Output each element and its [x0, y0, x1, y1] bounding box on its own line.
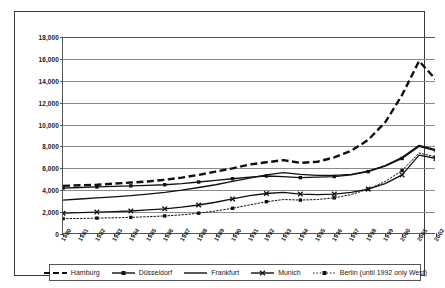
y-tick-label: 16,000	[39, 55, 59, 62]
series-munich	[63, 155, 435, 215]
data-point-marker	[129, 184, 132, 187]
y-tick-label: 4,000	[42, 187, 59, 194]
data-point-marker	[400, 169, 403, 172]
legend-key-marker	[322, 271, 326, 275]
legend-item-label: Düsseldorf	[139, 269, 172, 276]
y-tick-label: 18,000	[39, 34, 59, 41]
legend-key-marker	[121, 271, 125, 275]
legend-item-frankfurt[interactable]: Frankfurt	[183, 269, 239, 277]
data-point-marker	[434, 155, 435, 158]
legend-item-label: Frankfurt	[211, 269, 239, 276]
solid-line-key	[183, 269, 208, 277]
chart-legend: HamburgDüsseldorfFrankfurtMunichBerlin (…	[49, 264, 421, 281]
data-point-marker	[231, 177, 234, 180]
legend-item-hamburg[interactable]: Hamburg	[43, 269, 100, 277]
data-point-marker	[197, 180, 200, 183]
dashed-line-key	[43, 269, 68, 277]
data-series-svg	[63, 37, 435, 233]
y-tick-label: 0	[55, 231, 59, 238]
series-layer	[63, 37, 435, 233]
series-line	[63, 145, 435, 200]
data-point-marker	[163, 214, 166, 217]
y-tick-label: 14,000	[39, 77, 59, 84]
data-point-marker	[299, 176, 302, 179]
legend-item-düsseldorf[interactable]: Düsseldorf	[111, 269, 172, 277]
plot-area: 02,0004,0006,0008,00010,00012,00014,0001…	[62, 37, 435, 234]
data-point-marker	[265, 200, 268, 203]
legend-item-munich[interactable]: Munich	[250, 269, 301, 277]
y-tick-label: 2,000	[42, 209, 59, 216]
data-point-marker	[231, 207, 234, 210]
data-point-marker	[95, 216, 98, 219]
data-point-marker	[299, 198, 302, 201]
y-tick-label: 8,000	[42, 143, 59, 150]
legend-item-label: Munich	[278, 269, 301, 276]
chart-outer-frame: 02,0004,0006,0008,00010,00012,00014,0001…	[14, 11, 425, 276]
square-marker-line-key	[111, 269, 136, 277]
data-point-marker	[95, 185, 98, 188]
dotted-square-marker-key	[312, 269, 337, 277]
data-point-marker	[400, 173, 405, 178]
data-point-marker	[129, 216, 132, 219]
y-tick-label: 6,000	[42, 165, 59, 172]
data-point-marker	[163, 183, 166, 186]
data-point-marker	[63, 217, 65, 220]
data-point-marker	[333, 196, 336, 199]
x-marker-line-key	[250, 269, 275, 277]
y-tick-label: 12,000	[39, 99, 59, 106]
data-point-marker	[63, 186, 65, 189]
y-tick-label: 10,000	[39, 121, 59, 128]
series-frankfurt	[63, 145, 435, 200]
data-point-marker	[197, 212, 200, 215]
legend-item-label: Hamburg	[71, 269, 100, 276]
data-point-marker	[366, 187, 369, 190]
legend-item-berlin[interactable]: Berlin (until 1992 only West)	[312, 269, 427, 277]
legend-item-label: Berlin (until 1992 only West)	[340, 269, 427, 276]
